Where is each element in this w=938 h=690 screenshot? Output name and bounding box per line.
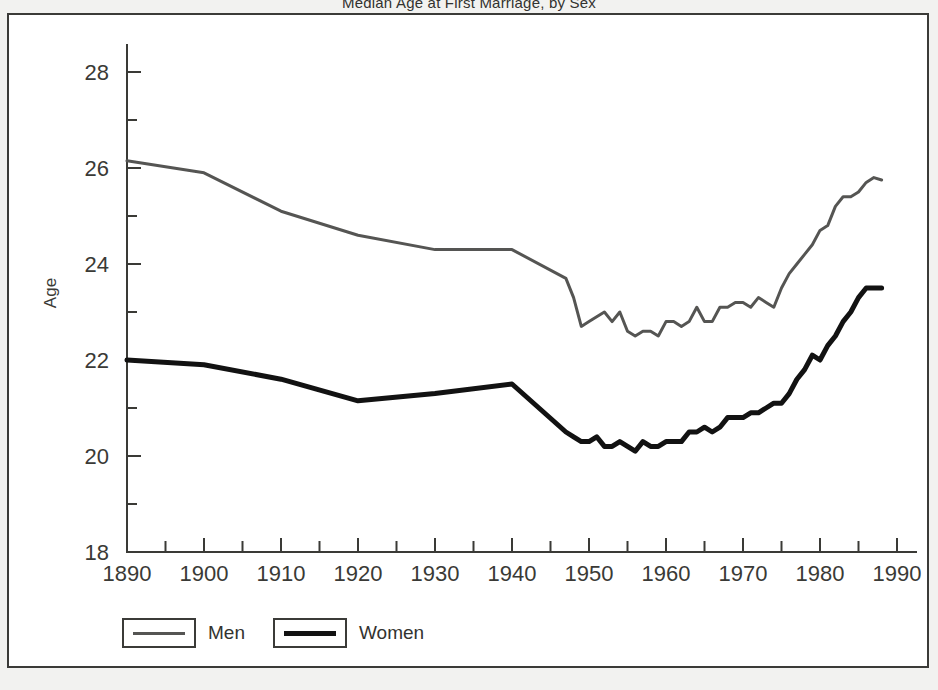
svg-text:1890: 1890 xyxy=(103,561,152,586)
legend-swatch-men xyxy=(133,632,185,635)
legend-key-men-box xyxy=(122,618,196,648)
svg-text:1970: 1970 xyxy=(719,561,768,586)
svg-text:1940: 1940 xyxy=(488,561,537,586)
line-chart-svg: 1820222426281890190019101920193019401950… xyxy=(2,2,938,690)
chart-legend: Men Women xyxy=(122,618,424,648)
legend-key-women-box xyxy=(273,618,347,648)
legend-label-women: Women xyxy=(359,622,424,644)
svg-text:1930: 1930 xyxy=(411,561,460,586)
svg-text:22: 22 xyxy=(85,348,109,373)
svg-text:1900: 1900 xyxy=(180,561,229,586)
svg-text:1980: 1980 xyxy=(796,561,845,586)
svg-text:1910: 1910 xyxy=(257,561,306,586)
legend-item-women[interactable]: Women xyxy=(273,618,424,648)
legend-label-men: Men xyxy=(208,622,245,644)
figure-page: Median Age at First Marriage, by Sex 182… xyxy=(0,0,938,690)
legend-item-men[interactable]: Men xyxy=(122,618,245,648)
svg-text:20: 20 xyxy=(85,444,109,469)
svg-text:1990: 1990 xyxy=(873,561,922,586)
y-axis-title: Age xyxy=(41,248,61,338)
svg-text:1960: 1960 xyxy=(642,561,691,586)
svg-text:1920: 1920 xyxy=(334,561,383,586)
svg-text:26: 26 xyxy=(85,156,109,181)
figure-frame: 1820222426281890190019101920193019401950… xyxy=(7,13,929,668)
legend-swatch-women xyxy=(284,631,336,636)
plot-area: 1820222426281890190019101920193019401950… xyxy=(9,15,931,670)
svg-text:24: 24 xyxy=(85,252,109,277)
svg-text:1950: 1950 xyxy=(565,561,614,586)
svg-text:28: 28 xyxy=(85,60,109,85)
